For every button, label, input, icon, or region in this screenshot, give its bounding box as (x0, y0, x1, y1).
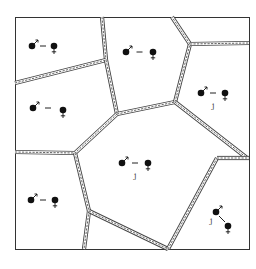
juvenile-label: j (209, 216, 212, 225)
pair (29, 40, 58, 54)
pair (123, 46, 157, 60)
boundary-segment (75, 153, 89, 211)
boundary-segment (102, 17, 106, 60)
pair (28, 194, 59, 208)
boundary-segment (117, 102, 175, 114)
female-symbol-icon (225, 223, 232, 234)
pair: j (119, 157, 152, 180)
pair: j (209, 206, 231, 234)
juvenile-label: j (133, 171, 136, 180)
male-symbol-icon (123, 46, 132, 55)
boundary-segment (106, 60, 117, 114)
male-symbol-icon (198, 87, 207, 96)
pair: j (198, 87, 229, 110)
female-symbol-icon (52, 197, 59, 208)
male-symbol-icon (119, 157, 128, 166)
male-symbol-icon (213, 206, 222, 215)
female-symbol-icon (150, 49, 157, 60)
male-symbol-icon (29, 40, 38, 49)
boundary-segment (168, 158, 217, 249)
boundary-segment (175, 102, 247, 158)
territory-diagram: jjj (0, 0, 256, 269)
juvenile-label: j (211, 101, 214, 110)
male-symbol-icon (28, 194, 37, 203)
female-symbol-icon (51, 43, 58, 54)
male-symbol-icon (30, 102, 39, 111)
boundary-segment (84, 211, 89, 249)
female-symbol-icon (60, 107, 67, 118)
boundary-segment (89, 211, 168, 249)
pair (30, 102, 67, 118)
pair-link (219, 216, 225, 222)
female-symbol-icon (145, 160, 152, 171)
boundary-segment (172, 17, 190, 44)
boundary-segment (175, 44, 190, 102)
boundary-segment (15, 60, 106, 83)
mating-pairs: jjj (28, 40, 232, 234)
boundary-segment (190, 43, 249, 44)
female-symbol-icon (222, 90, 229, 101)
boundary-segment (75, 114, 117, 153)
boundary-segment (15, 152, 75, 153)
